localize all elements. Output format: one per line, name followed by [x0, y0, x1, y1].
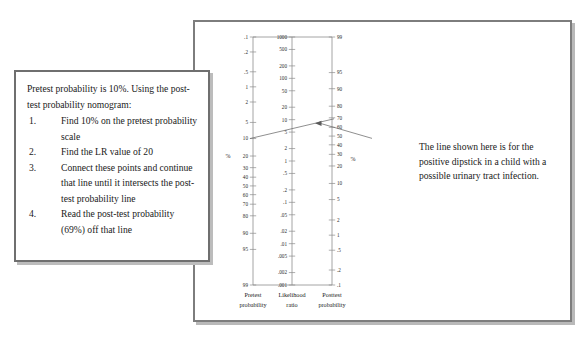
step-text: Connect these points and continue that l… [61, 162, 194, 204]
instruction-step: 2. Find the LR value of 20 [27, 144, 198, 160]
annotation-leader-line [320, 123, 372, 152]
posttest-percent-symbol: % [351, 156, 356, 162]
axis-tick-label: 30 [337, 151, 343, 157]
axis-tick-label: 70 [243, 201, 249, 207]
axis-tick-label: .5 [244, 69, 248, 75]
axis-tick-label: 1 [337, 232, 340, 238]
axis-tick-label: 100 [279, 75, 287, 81]
axis-tick-label: 20 [337, 163, 343, 169]
axis-tick-label: 99 [243, 282, 249, 288]
axis-tick-label: .005 [278, 253, 287, 259]
axis-tick-label: 5 [245, 119, 248, 125]
axis-tick-label: 30 [243, 165, 249, 171]
axis-tick-label: .1 [337, 282, 341, 288]
axis-tick-label: 40 [337, 142, 343, 148]
likelihood-ratio-ticks: 1000500200100502010521.5.2.1.05.02.01.00… [277, 34, 296, 288]
axis-tick-label: 20 [282, 104, 288, 110]
instruction-step: 1. Find 10% on the pretest probability s… [27, 113, 198, 144]
pretest-percent-symbol: % [226, 153, 231, 159]
axis-tick-label: 2 [337, 217, 340, 223]
axis-tick-label: 1 [245, 84, 248, 90]
step-text: Find the LR value of 20 [61, 146, 153, 157]
footer-posttest-line2: probability [318, 301, 346, 308]
instruction-text-box: Pretest probability is 10%. Using the po… [14, 70, 210, 262]
instruction-step: 3. Connect these points and continue tha… [27, 160, 198, 207]
axis-tick-label: .01 [281, 241, 288, 247]
axis-tick-label: 1 [284, 158, 287, 164]
axis-tick-label: 90 [243, 230, 249, 236]
axis-tick-label: 99 [337, 34, 343, 40]
axis-tick-label: 20 [243, 153, 249, 159]
axis-tick-label: 1000 [277, 34, 288, 40]
step-number: 3. [29, 160, 36, 176]
footer-likelihood-line1: Likelihood [278, 291, 306, 298]
axis-tick-label: .2 [244, 49, 248, 55]
axis-tick-label: .002 [278, 269, 287, 275]
pretest-probability-ticks: .1.2.51251020304050607080909599 [243, 34, 256, 288]
axis-tick-label: .2 [283, 187, 287, 193]
annotation-arrow-icon [315, 121, 322, 126]
axis-tick-label: 40 [243, 174, 249, 180]
instruction-step-list: 1. Find 10% on the pretest probability s… [27, 113, 198, 237]
step-number: 4. [29, 206, 36, 222]
axis-tick-label: .5 [337, 247, 341, 253]
axis-tick-label: 500 [279, 46, 287, 52]
axis-tick-label: 70 [337, 115, 343, 121]
axis-tick-label: 200 [279, 63, 287, 69]
nomogram-annotation-text: The line shown here is for the positive … [419, 140, 565, 184]
posttest-probability-ticks: 9995908070605040302010521.5.2.1 [329, 34, 343, 288]
footer-pretest-line2: probability [239, 301, 267, 308]
fagan-nomogram: .1.2.51251020304050607080909599 10005002… [222, 28, 372, 313]
axis-tick-label: .02 [281, 228, 288, 234]
axis-tick-label: 90 [337, 86, 343, 92]
axis-tick-label: .1 [283, 199, 287, 205]
axis-tick-label: .05 [281, 212, 288, 218]
axis-tick-label: 80 [337, 103, 343, 109]
footer-posttest-line1: Posttest [322, 291, 342, 298]
instruction-step: 4. Read the post-test probability (69%) … [27, 206, 198, 237]
axis-tick-label: 50 [337, 133, 343, 139]
axis-tick-label: 95 [243, 246, 249, 252]
axis-tick-label: 2 [245, 99, 248, 105]
axis-tick-label: 95 [337, 69, 343, 75]
nomogram-footer-labels: Pretest probability Likelihood ratio Pos… [239, 291, 346, 308]
axis-tick-label: 10 [282, 117, 288, 123]
step-text: Read the post-test probability (69%) off… [61, 208, 174, 235]
axis-tick-label: .2 [337, 267, 341, 273]
step-number: 1. [29, 113, 36, 129]
axis-tick-label: 5 [337, 196, 340, 202]
footer-likelihood-line2: ratio [286, 301, 297, 308]
axis-tick-label: 60 [243, 192, 249, 198]
axis-tick-label: .5 [283, 170, 287, 176]
axis-tick-label: 10 [243, 135, 249, 141]
axis-tick-label: 80 [243, 213, 249, 219]
footer-pretest-line1: Pretest [245, 291, 262, 298]
step-text: Find 10% on the pretest probability scal… [61, 115, 197, 142]
axis-tick-label: 50 [243, 183, 249, 189]
axis-tick-label: 10 [337, 180, 343, 186]
instruction-intro: Pretest probability is 10%. Using the po… [27, 81, 198, 112]
axis-tick-label: .1 [244, 34, 248, 40]
axis-tick-label: .001 [278, 282, 287, 288]
nomogram-svg: .1.2.51251020304050607080909599 10005002… [222, 28, 372, 313]
axis-tick-label: 2 [284, 145, 287, 151]
step-number: 2. [29, 144, 36, 160]
axis-tick-label: 50 [282, 88, 288, 94]
